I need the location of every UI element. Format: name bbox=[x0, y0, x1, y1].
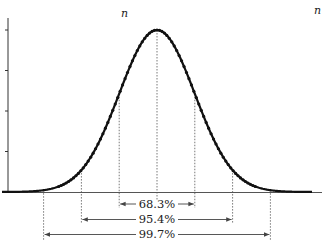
curve-marker bbox=[182, 65, 185, 68]
curve-marker bbox=[170, 40, 173, 43]
curve-marker bbox=[168, 37, 171, 40]
curve-marker bbox=[173, 44, 176, 47]
curve-marker bbox=[212, 137, 215, 140]
curve-marker bbox=[187, 77, 190, 80]
curve-marker bbox=[200, 109, 203, 112]
curve-marker bbox=[222, 156, 225, 159]
curve-marker bbox=[116, 96, 119, 99]
curve-marker bbox=[114, 102, 117, 105]
curve-marker bbox=[202, 115, 205, 118]
curve-marker bbox=[94, 147, 97, 150]
n-label-left: n bbox=[121, 7, 128, 20]
curve-marker bbox=[192, 90, 195, 93]
n-label-right: n bbox=[314, 4, 321, 17]
curve-marker bbox=[131, 59, 134, 62]
curve-marker bbox=[232, 169, 235, 172]
curve-marker bbox=[180, 59, 183, 62]
curve-marker bbox=[178, 54, 181, 57]
curve-marker bbox=[219, 152, 222, 155]
curve-marker bbox=[205, 121, 208, 124]
curve-marker bbox=[146, 34, 149, 37]
curve-marker bbox=[138, 44, 141, 47]
curve-marker bbox=[99, 137, 102, 140]
curve-marker bbox=[104, 127, 107, 130]
curve-marker bbox=[82, 166, 85, 169]
curve-marker bbox=[89, 156, 92, 159]
y-axis bbox=[5, 18, 8, 193]
curve-marker bbox=[111, 109, 114, 112]
curve-marker bbox=[87, 159, 90, 162]
curve-marker bbox=[163, 31, 166, 34]
curve-marker bbox=[214, 142, 217, 145]
curve-marker bbox=[190, 83, 193, 86]
curve-marker bbox=[136, 49, 139, 52]
curve-marker bbox=[72, 176, 75, 179]
curve-marker bbox=[175, 49, 178, 52]
curve-marker bbox=[79, 169, 82, 172]
interval-label-99: 99.7% bbox=[139, 227, 176, 241]
curve-marker bbox=[101, 132, 104, 135]
curve-marker bbox=[109, 115, 112, 118]
curve-marker bbox=[96, 142, 99, 145]
curve-marker bbox=[197, 102, 200, 105]
curve-marker bbox=[106, 121, 109, 124]
curve-marker bbox=[119, 90, 122, 93]
curve-marker bbox=[207, 127, 210, 130]
curve-marker bbox=[209, 132, 212, 135]
curve-marker bbox=[224, 159, 227, 162]
curve-marker bbox=[74, 174, 77, 177]
curve-marker bbox=[143, 37, 146, 40]
curve-marker bbox=[84, 163, 87, 166]
curve-marker bbox=[126, 71, 129, 74]
curve-marker bbox=[128, 65, 131, 68]
curve-marker bbox=[92, 152, 95, 155]
curve-marker bbox=[217, 147, 220, 150]
curve-marker bbox=[133, 54, 136, 57]
curve-marker bbox=[185, 71, 188, 74]
interval-label-95: 95.4% bbox=[139, 212, 176, 226]
normal-curve bbox=[2, 28, 312, 192]
curve-marker bbox=[141, 40, 144, 43]
normal-distribution-chart: n n 68.3% 95.4% 99.7% bbox=[0, 0, 322, 241]
curve-marker bbox=[165, 34, 168, 37]
curve-marker bbox=[195, 96, 198, 99]
curve-marker bbox=[236, 174, 239, 177]
interval-label-68: 68.3% bbox=[139, 197, 176, 211]
curve-marker bbox=[229, 166, 232, 169]
curve-marker bbox=[77, 172, 80, 175]
curve-marker bbox=[227, 163, 230, 166]
curve-marker bbox=[123, 77, 126, 80]
curve-marker bbox=[234, 172, 237, 175]
curve-marker bbox=[254, 185, 257, 188]
curve-marker bbox=[121, 83, 124, 86]
